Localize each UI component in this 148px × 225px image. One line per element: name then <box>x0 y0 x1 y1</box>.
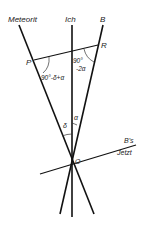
o-label: O <box>75 158 81 165</box>
r-label: R <box>101 41 107 50</box>
meteor-geometry-diagram: Meteorit Ich B P R 90°-δ+α 90° -2α δ α O… <box>0 0 148 225</box>
angle-p-arc <box>43 57 49 73</box>
meteorit-line <box>19 25 94 214</box>
angle-r-bottom-label: -2α <box>76 65 86 72</box>
meteorit-label: Meteorit <box>8 15 38 24</box>
jetzt-label: Jetzt <box>116 149 133 156</box>
b-label: B <box>100 15 106 24</box>
delta-label: δ <box>63 122 67 129</box>
ich-label: Ich <box>65 15 76 24</box>
angle-p-label: 90°-δ+α <box>41 74 64 81</box>
angle-r-top-label: 90° <box>73 57 83 64</box>
angle-r-arc <box>84 49 94 62</box>
alpha-label: α <box>74 114 79 121</box>
p-label: P <box>26 58 32 67</box>
b-line <box>60 25 103 214</box>
bs-label: B's <box>124 137 134 144</box>
